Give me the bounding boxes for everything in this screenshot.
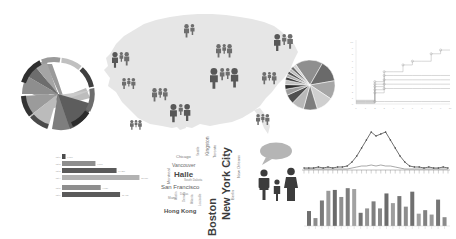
curve-data-point[interactable] [327,166,329,168]
person-icon[interactable] [138,120,142,130]
chord-arc[interactable] [62,60,81,68]
chord-arc[interactable] [88,89,92,111]
vertical-bar[interactable] [391,203,395,226]
pie-chart-panel[interactable] [283,58,339,112]
vertical-bar[interactable] [346,188,350,226]
curve-data-point[interactable] [351,161,353,163]
word-cloud-word[interactable]: Portland [226,155,230,166]
curve-data-point[interactable] [447,167,449,169]
person-icon[interactable] [130,120,134,130]
curve-data-point[interactable] [433,167,435,169]
curve-data-point[interactable] [438,167,440,169]
curve-data-point[interactable] [404,161,406,163]
vertical-bar[interactable] [359,213,363,226]
step-line-series[interactable] [356,80,450,102]
vertical-bar[interactable] [339,197,343,226]
vertical-bar[interactable] [320,200,324,226]
curve-data-point[interactable] [380,133,382,135]
vertical-bar[interactable] [378,208,382,226]
vertical-bar[interactable] [352,189,356,226]
curve-data-point[interactable] [399,155,401,157]
horizontal-bar[interactable] [62,185,101,190]
person-icon[interactable] [256,114,260,125]
pie-chart-svg[interactable] [283,58,339,112]
horizontal-bar-chart-panel[interactable]: cat-1cat-2cat-3cat-4cat-5cat-6 1,2407,86… [48,152,166,208]
vertical-bar[interactable] [397,196,401,226]
chord-diagram-panel[interactable] [8,48,108,140]
curve-data-point[interactable] [375,135,377,137]
person-icon-adult-female[interactable] [284,168,298,201]
vertical-bar[interactable] [326,191,330,226]
speech-bubble-icon[interactable] [260,143,292,166]
person-icon-adult-male[interactable] [259,169,270,200]
curve-data-point[interactable] [361,147,363,149]
curve-data-point[interactable] [428,166,430,168]
vertical-bar[interactable] [365,208,369,226]
word-cloud-word[interactable]: Toronto [212,145,217,158]
curve-data-point[interactable] [390,139,392,141]
word-cloud-panel[interactable]: New York CityBostonHalleSan FranciscoHon… [160,126,252,236]
step-line-series[interactable] [356,75,450,100]
curve-data-point[interactable] [385,131,387,133]
word-cloud-word[interactable]: San Francisco [161,184,199,190]
curve-data-point[interactable] [337,166,339,168]
curve-series-primary[interactable] [304,132,448,168]
word-cloud-word[interactable]: South Dakota [184,178,202,182]
vertical-bar[interactable] [430,215,434,226]
vertical-bar[interactable] [313,218,317,226]
vertical-bar[interactable] [372,201,376,226]
us-map-svg[interactable] [96,6,312,136]
distribution-curve-svg[interactable] [300,122,452,178]
vertical-bar[interactable] [436,200,440,226]
curve-data-point[interactable] [318,166,320,168]
horizontal-bar[interactable] [62,154,66,159]
curve-data-point[interactable] [414,166,416,168]
curve-data-point[interactable] [342,166,344,168]
horizontal-bar[interactable] [62,161,95,166]
word-cloud-word[interactable]: Atlanta [190,195,194,204]
word-cloud-word[interactable]: Louisville [198,194,202,206]
us-population-map-panel[interactable] [96,6,312,136]
vertical-bar[interactable] [423,210,427,226]
curve-data-point[interactable] [356,155,358,157]
horizontal-bar-chart-svg[interactable]: cat-1cat-2cat-3cat-4cat-5cat-6 1,2407,86… [48,152,166,208]
curve-data-point[interactable] [346,165,348,167]
word-cloud-word[interactable]: Berlin [230,190,235,200]
horizontal-bar[interactable] [62,192,120,197]
vertical-bar[interactable] [417,214,421,226]
word-cloud-word[interactable]: Kingston [204,137,210,156]
chord-diagram-svg[interactable] [8,48,108,140]
word-cloud-word[interactable]: Montreal [166,168,171,184]
horizontal-bar[interactable] [62,168,117,173]
curve-data-point[interactable] [370,131,372,133]
word-cloud-word[interactable]: Hong Kong [164,208,196,214]
word-cloud-word[interactable]: New Orleans [236,155,241,178]
vertical-bar[interactable] [333,190,337,226]
word-cloud-word[interactable]: Miami [168,196,176,200]
vertical-bar[interactable] [384,193,388,226]
curve-data-point[interactable] [442,166,444,168]
word-cloud-word[interactable]: Vancouver [172,162,196,168]
vertical-bar[interactable] [404,207,408,226]
step-line-chart-svg[interactable]: 109876543210 012345678910 [340,36,454,118]
step-line-series[interactable] [356,89,450,103]
person-icon-child[interactable] [274,179,280,201]
curve-data-point[interactable] [308,167,310,169]
curve-data-point[interactable] [303,167,305,169]
curve-data-point[interactable] [394,147,396,149]
curve-data-point[interactable] [423,167,425,169]
word-cloud-word[interactable]: Boston [206,198,218,236]
step-line-series[interactable] [356,102,450,104]
curve-data-point[interactable] [332,167,334,169]
step-line-series[interactable] [356,50,450,100]
horizontal-bar[interactable] [62,175,139,180]
vertical-bar-chart-panel[interactable] [302,176,452,236]
word-cloud-word[interactable]: Seattle [196,147,200,156]
vertical-bar[interactable] [443,217,447,226]
vertical-bar[interactable] [410,192,414,226]
vertical-bar-chart-svg[interactable] [302,176,452,236]
curve-data-point[interactable] [313,167,315,169]
person-icon[interactable] [135,120,138,127]
distribution-curve-panel[interactable] [300,122,452,178]
chord-arc[interactable] [42,60,60,62]
